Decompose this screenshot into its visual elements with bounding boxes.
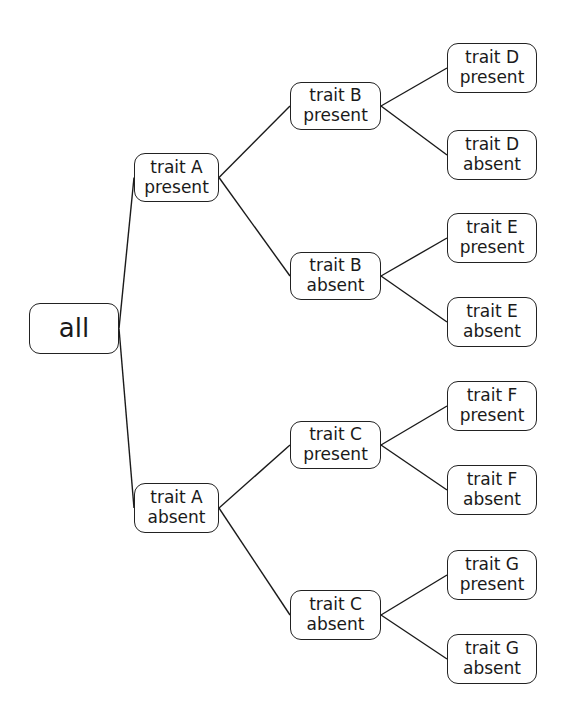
node-label-line2: present [460,238,525,258]
edge-C_absent-G_present [381,575,447,615]
node-label-line1: trait F [467,470,518,490]
edge-all-A_absent [119,329,134,509]
node-label-line2: absent [307,276,365,296]
node-trait-d-present: trait D present [447,43,537,93]
node-trait-f-present: trait F present [447,381,537,431]
node-label-line2: present [460,406,525,426]
edge-A_present-B_present [219,106,290,178]
node-trait-f-absent: trait F absent [447,465,537,515]
node-label-line2: absent [463,490,521,510]
node-label-line2: absent [463,659,521,679]
node-label-line2: absent [463,155,521,175]
node-label-line2: absent [307,615,365,635]
node-trait-a-absent: trait A absent [134,483,219,533]
node-label-line1: trait D [465,135,519,155]
node-trait-e-absent: trait E absent [447,297,537,347]
edge-C_absent-G_absent [381,615,447,659]
node-trait-d-absent: trait D absent [447,130,537,180]
node-label-line2: present [303,445,368,465]
edge-all-A_present [119,178,134,329]
node-trait-c-present: trait C present [290,421,381,469]
node-label-line2: absent [148,508,206,528]
node-label-line2: present [460,68,525,88]
edge-A_present-B_absent [219,178,290,277]
node-trait-g-absent: trait G absent [447,634,537,684]
node-label-line1: trait G [465,639,519,659]
node-trait-g-present: trait G present [447,550,537,600]
node-label-line1: trait A [150,158,203,178]
node-label-line1: trait D [465,48,519,68]
edge-A_absent-C_absent [219,508,290,615]
node-trait-b-absent: trait B absent [290,252,381,300]
node-label-line1: trait B [309,86,362,106]
edge-B_present-D_present [381,68,447,106]
node-label-line2: present [303,106,368,126]
node-label-line1: trait B [309,256,362,276]
edge-B_absent-E_present [381,238,447,276]
node-label-line1: trait E [466,218,518,238]
node-all: all [29,303,119,354]
node-label-line1: trait F [467,386,518,406]
node-label-line1: trait C [309,595,362,615]
node-label-line2: present [144,178,209,198]
edge-B_absent-E_absent [381,276,447,322]
node-label-line1: trait G [465,555,519,575]
node-label-line1: trait A [150,488,203,508]
tree-edges [0,0,569,722]
edge-C_present-F_absent [381,445,447,490]
edge-B_present-D_absent [381,106,447,155]
node-label-line2: present [460,575,525,595]
node-all-label: all [59,314,89,344]
edge-C_present-F_present [381,406,447,445]
node-trait-b-present: trait B present [290,82,381,130]
node-trait-c-absent: trait C absent [290,590,381,640]
node-label-line1: trait E [466,302,518,322]
node-trait-a-present: trait A present [134,153,219,202]
edge-A_absent-C_present [219,445,290,508]
node-label-line2: absent [463,322,521,342]
node-label-line1: trait C [309,425,362,445]
node-trait-e-present: trait E present [447,213,537,263]
